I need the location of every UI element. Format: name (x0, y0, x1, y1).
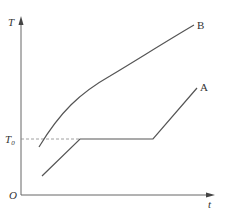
t0-label: T0 (5, 133, 15, 147)
curve-a-label: A (200, 81, 208, 93)
curve-b (39, 25, 194, 147)
origin-label: O (9, 189, 17, 201)
x-axis-arrow-icon (206, 193, 215, 198)
y-axis-label: T (8, 16, 15, 28)
temperature-time-diagram: T t O T0 A B (0, 0, 226, 218)
y-axis-arrow-icon (19, 16, 24, 25)
curve-a (42, 88, 197, 176)
curve-b-label: B (197, 19, 204, 31)
x-axis-label: t (208, 198, 212, 210)
